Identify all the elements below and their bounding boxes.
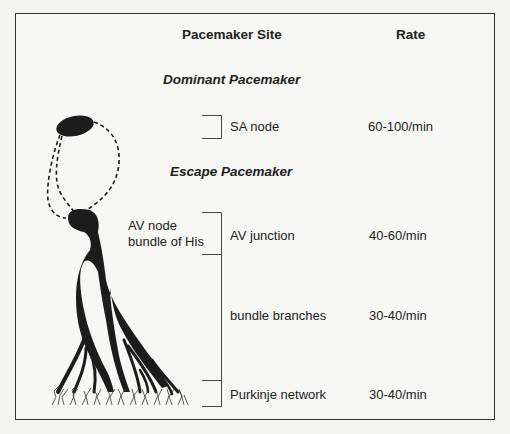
rate-bundle-branches: 30-40/min: [369, 308, 427, 323]
av-junction-bracket: [202, 213, 222, 255]
site-sa-node: SA node: [230, 119, 279, 134]
header-pacemaker-site: Pacemaker Site: [182, 27, 282, 42]
sa-node-bracket: [202, 116, 222, 139]
label-bundle-of-his: bundle of His: [128, 234, 204, 249]
rate-purkinje-network: 30-40/min: [369, 387, 427, 402]
section-escape-pacemaker: Escape Pacemaker: [170, 164, 292, 179]
rate-av-junction: 40-60/min: [369, 228, 427, 243]
header-rate: Rate: [396, 27, 425, 42]
internodal-pathways: [48, 122, 120, 218]
label-av-node: AV node: [128, 218, 177, 233]
section-dominant-pacemaker: Dominant Pacemaker: [163, 72, 300, 87]
purkinje-fibers: [52, 385, 188, 405]
site-av-junction: AV junction: [230, 228, 295, 243]
site-bundle-branches: bundle branches: [230, 308, 326, 323]
site-brackets: [202, 116, 222, 407]
ventricular-bracket: [202, 255, 222, 407]
rate-sa-node: 60-100/min: [368, 119, 433, 134]
conduction-system-illustration: [0, 0, 510, 434]
site-purkinje-network: Purkinje network: [230, 387, 326, 402]
